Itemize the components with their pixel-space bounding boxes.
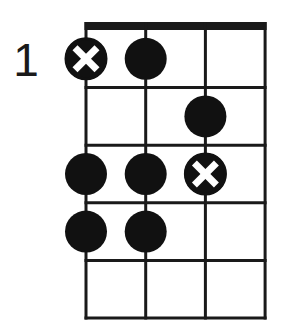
starting-fret-label: 1 — [13, 34, 39, 86]
nut — [85, 22, 267, 30]
finger-dot-icon — [125, 153, 167, 195]
finger-dot-icon — [125, 211, 167, 253]
finger-dot-icon — [184, 95, 226, 137]
finger-dot-icon — [125, 38, 167, 80]
fretboard-diagram: 1 — [0, 0, 288, 331]
finger-dot-icon — [65, 211, 107, 253]
fret-grid — [85, 22, 267, 320]
x-marked-dot-icon — [65, 38, 107, 80]
finger-dot-icon — [65, 153, 107, 195]
x-marked-dot-icon — [184, 153, 226, 195]
